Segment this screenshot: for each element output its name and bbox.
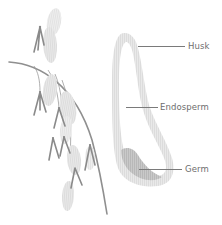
endosperm-leader-line: [126, 107, 158, 108]
husk-label: Husk: [188, 41, 210, 51]
endosperm-label: Endosperm: [160, 102, 209, 112]
husk-leader-line: [138, 46, 185, 47]
germ-label: Germ: [185, 164, 209, 174]
oat-diagram: Husk Endosperm Germ: [0, 0, 222, 225]
oat-illustration: [0, 0, 222, 225]
oat-plant: [9, 7, 107, 214]
germ-leader-line: [139, 169, 182, 170]
